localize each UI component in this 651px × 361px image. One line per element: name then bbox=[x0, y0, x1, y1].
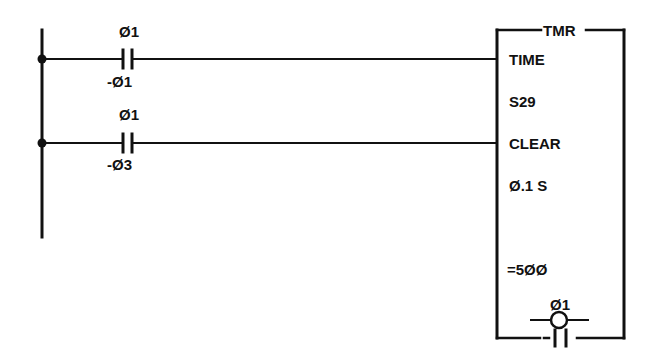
coil-label: Ø1 bbox=[550, 297, 570, 312]
ladder-diagram: Ø1 -Ø1 Ø1 -Ø3 TMR TIME S29 CLEAR Ø.1 S =… bbox=[0, 0, 651, 361]
timer-timebase: Ø.1 S bbox=[509, 178, 547, 193]
timer-input-clear: CLEAR bbox=[509, 136, 561, 151]
timer-input-time: TIME bbox=[509, 52, 545, 67]
contact-label-top: Ø1 bbox=[119, 107, 139, 122]
contact-label-bottom: -Ø3 bbox=[107, 157, 132, 172]
contact-label-top: Ø1 bbox=[119, 24, 139, 39]
rung-1 bbox=[38, 50, 498, 68]
timer-title: TMR bbox=[543, 23, 576, 38]
contact-label-bottom: -Ø1 bbox=[107, 74, 132, 89]
timer-register: S29 bbox=[509, 94, 536, 109]
output-coil-icon bbox=[531, 312, 588, 328]
rung-2 bbox=[38, 134, 498, 152]
output-contact-icon bbox=[544, 330, 566, 346]
timer-preset: =5ØØ bbox=[507, 262, 547, 277]
